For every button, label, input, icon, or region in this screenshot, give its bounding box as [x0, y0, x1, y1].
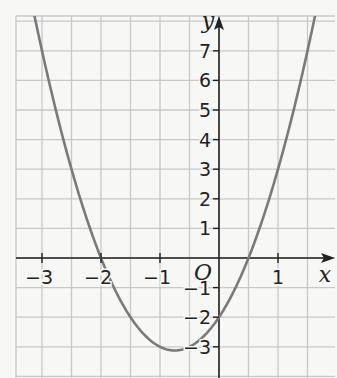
x-tick-label: −3: [25, 266, 53, 288]
parabola-line: [18, 0, 331, 351]
x-tick-label: −1: [143, 266, 171, 288]
y-axis-label: y: [201, 8, 215, 33]
x-tick-label: 1: [272, 266, 284, 288]
grid-lines: [16, 16, 335, 378]
origin-label: O: [194, 260, 212, 285]
x-axis-label: x: [319, 262, 332, 287]
y-tick-label: −2: [183, 306, 211, 328]
y-tick-label: −3: [183, 336, 211, 358]
parabola-graph: −3−2−117654321−1−2−3Oxy: [0, 0, 337, 378]
axes: [16, 16, 335, 378]
y-tick-label: 4: [199, 129, 211, 151]
x-tick-label: −2: [84, 266, 112, 288]
y-tick-label: 7: [199, 40, 211, 62]
parabola-curve: [18, 0, 331, 351]
y-tick-label: 2: [199, 188, 211, 210]
y-tick-label: 5: [199, 99, 211, 121]
y-tick-label: 6: [199, 69, 211, 91]
y-tick-label: 1: [199, 217, 211, 239]
y-tick-label: 3: [199, 158, 211, 180]
